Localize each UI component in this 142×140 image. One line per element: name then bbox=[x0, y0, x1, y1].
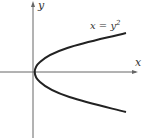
curve-label: x = y2 bbox=[90, 19, 121, 31]
y-axis-arrow-icon bbox=[31, 1, 35, 7]
curve-label-base: x = y bbox=[90, 20, 116, 31]
parabola-diagram: x y x = y2 bbox=[0, 0, 142, 140]
x-axis-label: x bbox=[135, 56, 142, 69]
diagram-canvas: x y x = y2 bbox=[0, 0, 142, 140]
y-axis-label: y bbox=[37, 0, 45, 12]
curve-label-exponent: 2 bbox=[115, 19, 121, 27]
x-axis-arrow-icon bbox=[132, 70, 138, 74]
